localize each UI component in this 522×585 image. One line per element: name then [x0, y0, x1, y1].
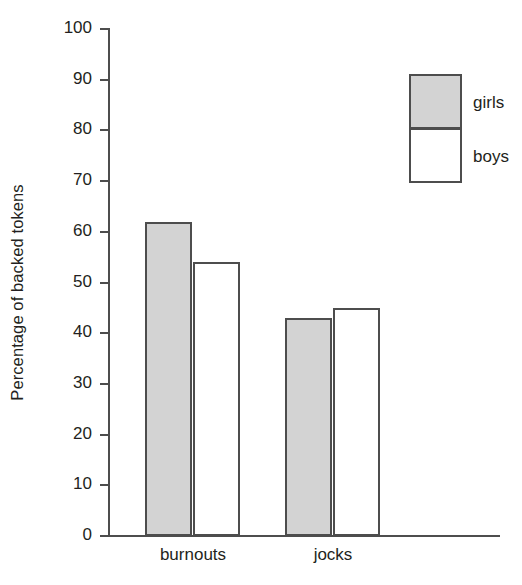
y-tick-label-20: 20	[30, 424, 92, 444]
y-tick-label-10: 10	[30, 474, 92, 494]
y-tick-80	[100, 129, 109, 131]
legend-label-boys: boys	[473, 147, 509, 167]
legend-label-girls: girls	[473, 93, 504, 113]
y-tick-label-0: 0	[30, 525, 92, 545]
y-tick-label-100: 100	[30, 18, 92, 38]
y-tick-60	[100, 231, 109, 233]
y-axis-title: Percentage of backed tokens	[0, 0, 34, 585]
bar-jocks-boys	[333, 308, 380, 536]
y-tick-100	[100, 28, 109, 30]
y-tick-50	[100, 282, 109, 284]
y-tick-70	[100, 180, 109, 182]
legend-swatch-girls	[409, 74, 462, 129]
bar-burnouts-boys	[193, 262, 240, 536]
bar-jocks-girls	[285, 318, 332, 536]
legend-swatch-boys	[409, 128, 462, 183]
y-tick-20	[100, 434, 109, 436]
y-tick-10	[100, 484, 109, 486]
bar-burnouts-girls	[145, 222, 192, 536]
y-tick-label-70: 70	[30, 170, 92, 190]
x-axis-label-jocks: jocks	[314, 545, 353, 565]
y-tick-label-80: 80	[30, 119, 92, 139]
bar-chart: Percentage of backed tokens 100908070605…	[0, 0, 522, 585]
y-tick-label-90: 90	[30, 69, 92, 89]
y-tick-0	[100, 535, 109, 537]
y-tick-label-60: 60	[30, 221, 92, 241]
y-tick-label-30: 30	[30, 373, 92, 393]
y-tick-40	[100, 332, 109, 334]
y-tick-90	[100, 79, 109, 81]
y-tick-label-50: 50	[30, 272, 92, 292]
x-axis-label-burnouts: burnouts	[160, 545, 226, 565]
y-tick-label-40: 40	[30, 322, 92, 342]
y-tick-30	[100, 383, 109, 385]
